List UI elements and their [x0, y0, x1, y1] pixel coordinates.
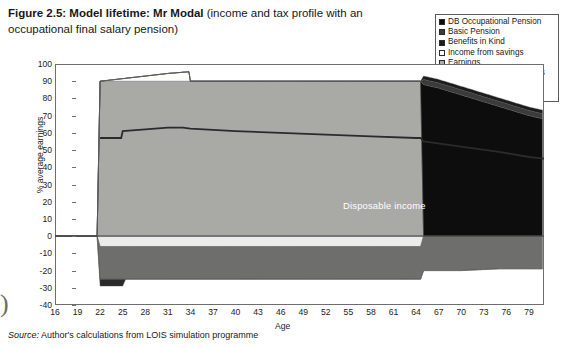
y-axis-tick-mark	[72, 305, 76, 306]
x-axis-label: Age	[275, 321, 290, 331]
x-axis-tick-label: 76	[494, 308, 518, 317]
y-axis-tick-label: -20	[26, 267, 52, 276]
y-axis-tick-label: -10	[26, 249, 52, 258]
x-axis-tick-label: 52	[314, 308, 338, 317]
x-axis-tick-label: 49	[291, 308, 315, 317]
y-axis-tick-mark	[72, 288, 76, 289]
y-axis-tick-label: 100	[26, 60, 52, 69]
legend-item-label: Basic Pension	[448, 27, 500, 37]
x-axis-tick-label: 16	[43, 308, 67, 317]
y-axis-tick-mark	[72, 81, 76, 82]
legend-swatch-icon	[439, 19, 445, 25]
y-axis-tick-label: 0	[26, 232, 52, 241]
legend-item-label: DB Occupational Pension	[448, 17, 541, 27]
y-axis-label: % average earnings	[35, 95, 45, 215]
legend-item-label: Income from savings	[448, 48, 524, 58]
legend-item: Income from savings	[439, 48, 555, 58]
legend-item: DB Occupational Pension	[439, 17, 555, 27]
legend-item: Basic Pension	[439, 27, 555, 37]
y-axis-tick-mark	[72, 253, 76, 254]
x-axis-tick-label: 22	[88, 308, 112, 317]
annotation-disposable-income: Disposable income	[343, 200, 426, 211]
figure-title: Figure 2.5: Model lifetime: Mr Modal (in…	[8, 6, 380, 37]
y-axis-tick-mark	[72, 98, 76, 99]
legend-swatch-icon	[439, 40, 445, 46]
x-axis-tick-label: 25	[111, 308, 135, 317]
x-axis-tick-label: 64	[404, 308, 428, 317]
y-axis-tick-mark	[72, 133, 76, 134]
y-axis-tick-mark	[72, 150, 76, 151]
x-axis-tick-label: 70	[449, 308, 473, 317]
y-axis-tick-mark	[72, 64, 76, 65]
y-axis-tick-label: -30	[26, 284, 52, 293]
y-axis-tick-mark	[72, 167, 76, 168]
legend-item-label: Benefits in Kind	[448, 37, 505, 47]
chart-canvas	[55, 64, 544, 305]
legend-swatch-icon	[439, 29, 445, 35]
y-axis-tick-mark	[72, 271, 76, 272]
x-axis-tick-label: 58	[359, 308, 383, 317]
x-axis-tick-label: 31	[156, 308, 180, 317]
x-axis-tick-label: 61	[382, 308, 406, 317]
x-axis-tick-label: 19	[66, 308, 90, 317]
x-axis-ticks: 1619222528313437404346495255586164677073…	[55, 308, 544, 322]
y-axis-tick-label: 90	[26, 77, 52, 86]
source-label: Source:	[8, 330, 39, 340]
x-axis-tick-label: 40	[224, 308, 248, 317]
page-curl-icon: )	[0, 291, 22, 317]
x-axis-tick-label: 28	[133, 308, 157, 317]
x-axis-tick-label: 34	[178, 308, 202, 317]
x-axis-tick-label: 43	[246, 308, 270, 317]
x-axis-tick-label: 37	[201, 308, 225, 317]
legend-swatch-icon	[439, 50, 445, 56]
y-axis-tick-mark	[72, 185, 76, 186]
y-axis-tick-mark	[72, 219, 76, 220]
x-axis-tick-label: 79	[517, 308, 541, 317]
source-note: Source: Author's calculations from LOIS …	[8, 330, 258, 340]
y-axis-tick-mark	[72, 236, 76, 237]
y-axis-tick-mark	[72, 202, 76, 203]
legend-item: Benefits in Kind	[439, 37, 555, 47]
source-text: Author's calculations from LOIS simulati…	[39, 330, 258, 340]
x-axis-tick-label: 46	[269, 308, 293, 317]
y-axis-tick-label: 10	[26, 215, 52, 224]
y-axis-tick-mark	[72, 116, 76, 117]
x-axis-tick-label: 73	[472, 308, 496, 317]
figure-container: Figure 2.5: Model lifetime: Mr Modal (in…	[0, 0, 566, 348]
plot-area: Disposable income	[55, 64, 544, 305]
x-axis-tick-label: 55	[336, 308, 360, 317]
figure-title-bold: Figure 2.5: Model lifetime: Mr Modal	[8, 7, 204, 19]
x-axis-tick-label: 67	[427, 308, 451, 317]
